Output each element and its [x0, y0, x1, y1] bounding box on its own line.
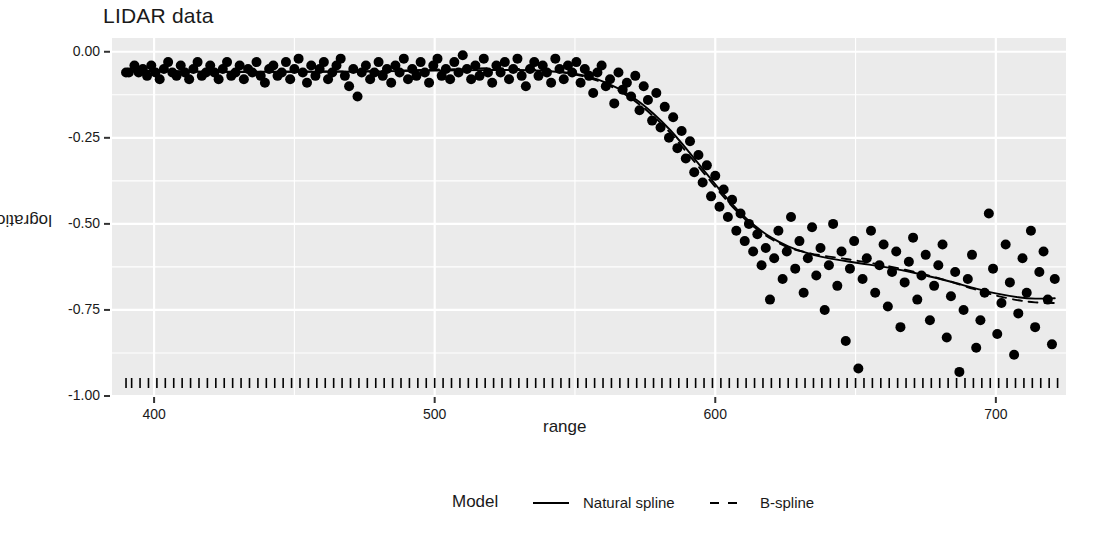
x-tick-label: 400: [139, 406, 169, 422]
data-point: [319, 57, 329, 67]
data-point: [841, 336, 851, 346]
x-axis-label: range: [543, 417, 586, 437]
data-point: [395, 67, 405, 77]
data-point: [929, 281, 939, 291]
data-point: [571, 57, 581, 67]
data-point: [1018, 253, 1028, 263]
data-point: [904, 257, 914, 267]
data-point: [512, 54, 522, 64]
data-point: [1022, 288, 1032, 298]
y-tick-label: -0.25: [52, 129, 100, 145]
data-point: [769, 253, 779, 263]
data-point: [252, 57, 262, 67]
data-point: [996, 298, 1006, 308]
data-point: [891, 246, 901, 256]
data-point: [811, 271, 821, 281]
data-point: [837, 246, 847, 256]
y-tick-label: -0.75: [52, 301, 100, 317]
data-point: [660, 102, 670, 112]
data-point: [866, 226, 876, 236]
data-point: [984, 209, 994, 219]
data-point: [613, 67, 623, 77]
data-point: [651, 88, 661, 98]
data-point: [546, 78, 556, 88]
data-point: [542, 67, 552, 77]
data-point: [714, 202, 724, 212]
data-point: [765, 295, 775, 305]
data-point: [820, 305, 830, 315]
data-point: [588, 88, 598, 98]
y-tick-label: 0.00: [52, 43, 100, 59]
data-point: [900, 277, 910, 287]
data-point: [353, 92, 363, 102]
data-point: [622, 78, 632, 88]
data-point: [374, 57, 384, 67]
data-point: [155, 74, 165, 84]
data-point: [921, 250, 931, 260]
legend-label-b-spline[interactable]: B-spline: [760, 494, 814, 511]
data-point: [285, 74, 295, 84]
data-point: [294, 54, 304, 64]
lidar-chart-figure: LIDAR data logratio 400500600700 0.00-0.…: [0, 0, 1100, 539]
data-point: [992, 329, 1002, 339]
data-point: [399, 54, 409, 64]
data-point: [815, 243, 825, 253]
data-point: [895, 322, 905, 332]
data-point: [222, 57, 232, 67]
data-point: [239, 74, 249, 84]
data-point: [260, 78, 270, 88]
data-point: [420, 67, 430, 77]
data-point: [988, 264, 998, 274]
data-point: [967, 250, 977, 260]
data-point: [504, 74, 514, 84]
data-point: [963, 274, 973, 284]
data-point: [1034, 267, 1044, 277]
data-point: [416, 57, 426, 67]
data-point: [879, 240, 889, 250]
data-point: [740, 236, 750, 246]
data-point: [214, 74, 224, 84]
data-point: [1005, 277, 1015, 287]
data-point: [1050, 274, 1060, 284]
data-point: [268, 61, 278, 71]
data-point: [500, 57, 510, 67]
data-point: [643, 95, 653, 105]
data-point: [1030, 322, 1040, 332]
data-point: [559, 74, 569, 84]
data-point: [647, 116, 657, 126]
chart-plot-area: [0, 0, 1100, 539]
y-tick-label: -0.50: [52, 215, 100, 231]
data-point: [336, 54, 346, 64]
x-tick-label: 700: [981, 406, 1011, 422]
data-point: [925, 315, 935, 325]
data-point: [281, 57, 291, 67]
data-point: [635, 105, 645, 115]
data-point: [1039, 246, 1049, 256]
data-point: [912, 295, 922, 305]
data-point: [908, 233, 918, 243]
data-point: [849, 236, 859, 246]
data-point: [479, 54, 489, 64]
data-point: [1013, 308, 1023, 318]
data-point: [193, 57, 203, 67]
data-point: [639, 81, 649, 91]
data-point: [706, 191, 716, 201]
data-point: [757, 260, 767, 270]
data-point: [609, 98, 619, 108]
data-point: [685, 136, 695, 146]
legend-title: Model: [452, 492, 498, 512]
data-point: [828, 219, 838, 229]
data-point: [550, 54, 560, 64]
data-point: [790, 264, 800, 274]
data-point: [946, 291, 956, 301]
data-point: [487, 78, 497, 88]
data-point: [630, 71, 640, 81]
data-point: [458, 50, 468, 60]
legend-label-natural-spline[interactable]: Natural spline: [583, 494, 675, 511]
data-point: [858, 274, 868, 284]
data-point: [731, 226, 741, 236]
data-point: [445, 74, 455, 84]
data-point: [449, 57, 459, 67]
x-tick-label: 600: [700, 406, 730, 422]
data-point: [950, 267, 960, 277]
